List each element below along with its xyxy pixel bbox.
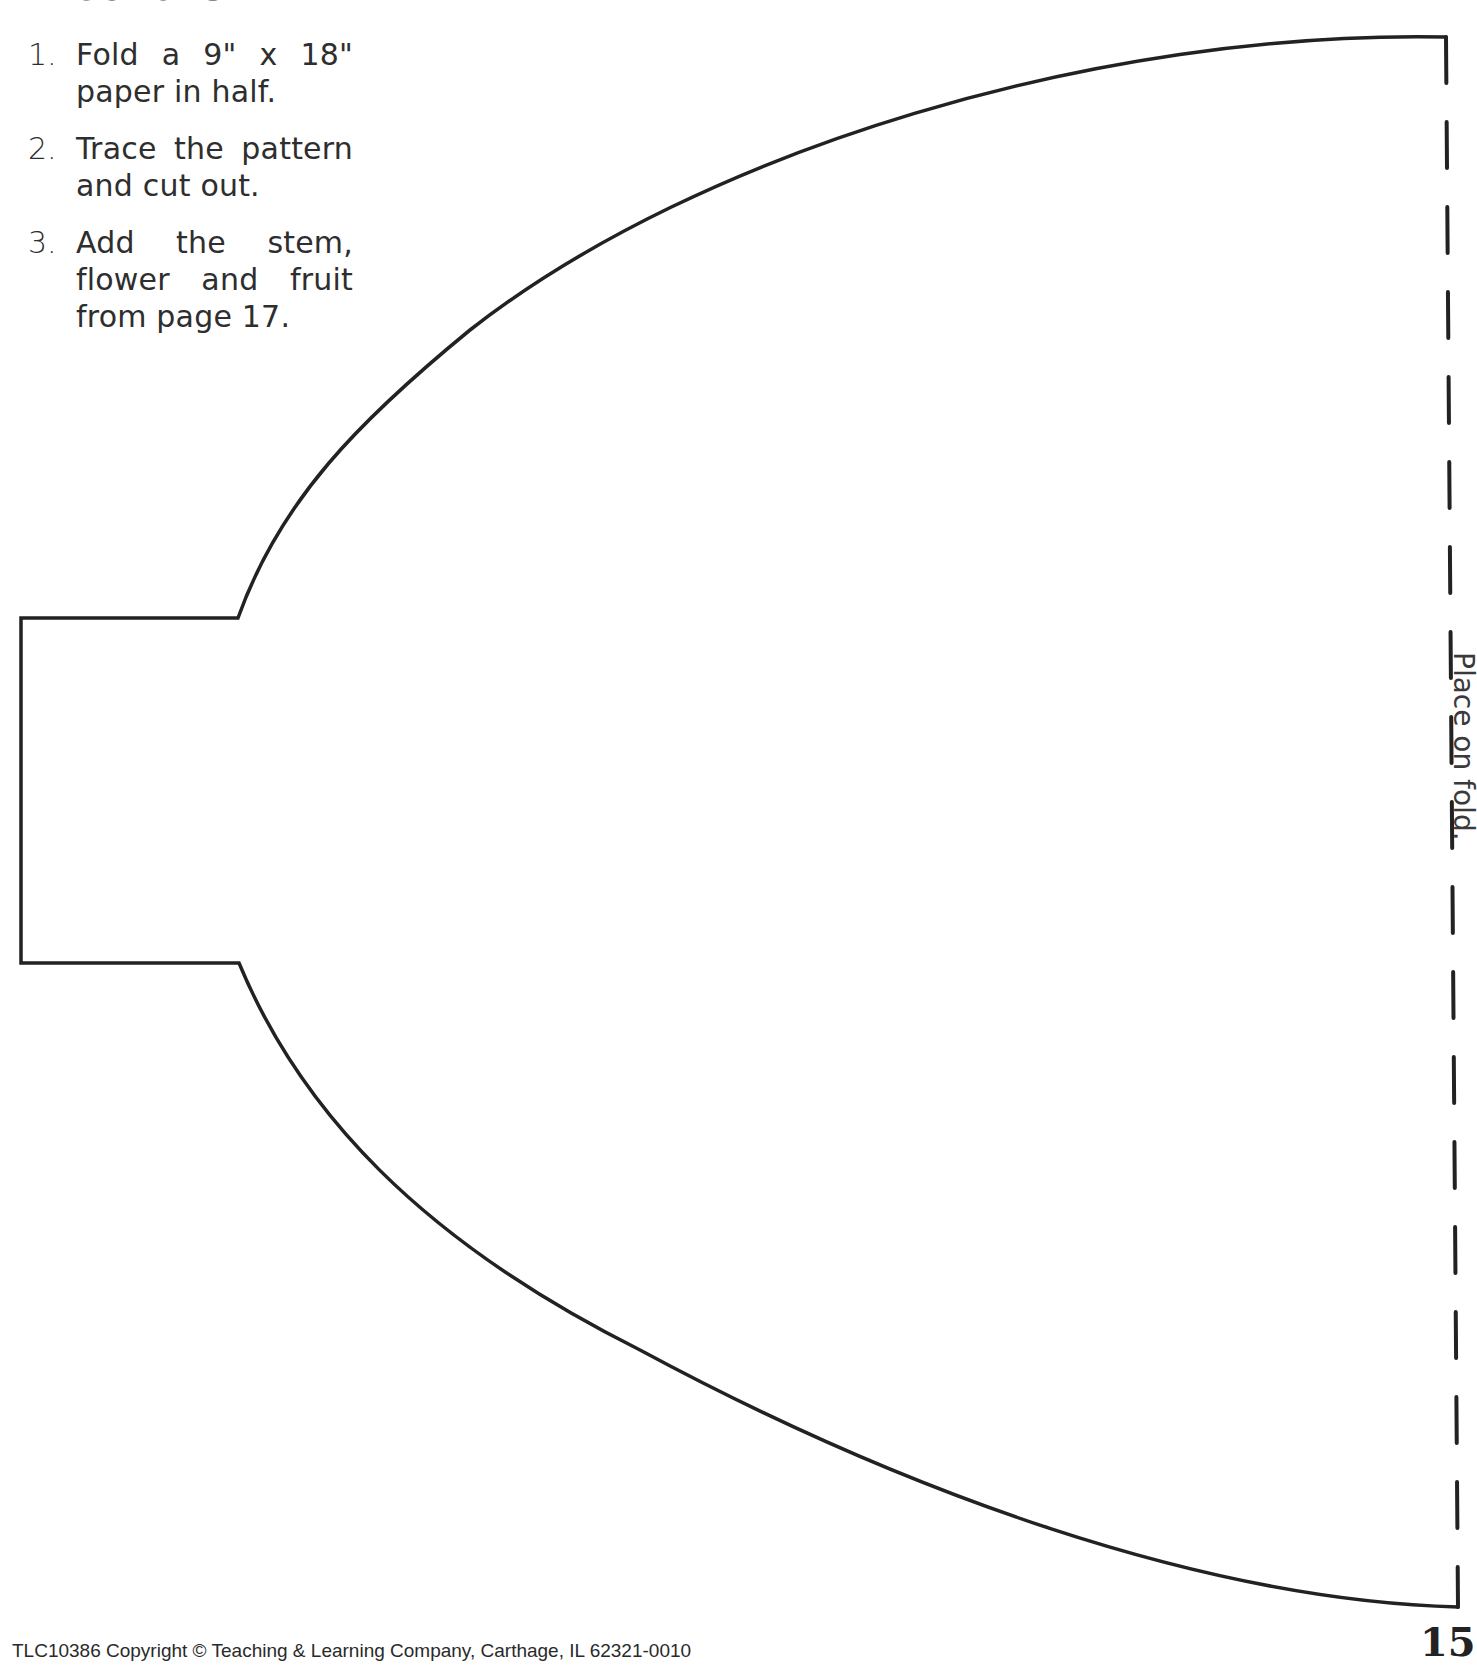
place-on-fold-label: Place on fold.	[1448, 652, 1477, 841]
step-number: 1.	[28, 36, 76, 73]
page-number: 15	[1420, 1620, 1476, 1664]
step-text: Add the stem, flower and fruit from page…	[76, 224, 353, 335]
step-number: 2.	[28, 130, 76, 167]
directions-heading: Directions	[12, 0, 224, 6]
direction-step-1: 1. Fold a 9" x 18" paper in half.	[28, 36, 353, 110]
footer-copyright: TLC10386 Copyright © Teaching & Learning…	[12, 1640, 691, 1662]
direction-step-3: 3. Add the stem, flower and fruit from p…	[28, 224, 353, 335]
step-text: Fold a 9" x 18" paper in half.	[76, 36, 353, 110]
directions-list: 1. Fold a 9" x 18" paper in half. 2. Tra…	[28, 36, 353, 355]
step-number: 3.	[28, 224, 76, 261]
step-text: Trace the pattern and cut out.	[76, 130, 353, 204]
direction-step-2: 2. Trace the pattern and cut out.	[28, 130, 353, 204]
